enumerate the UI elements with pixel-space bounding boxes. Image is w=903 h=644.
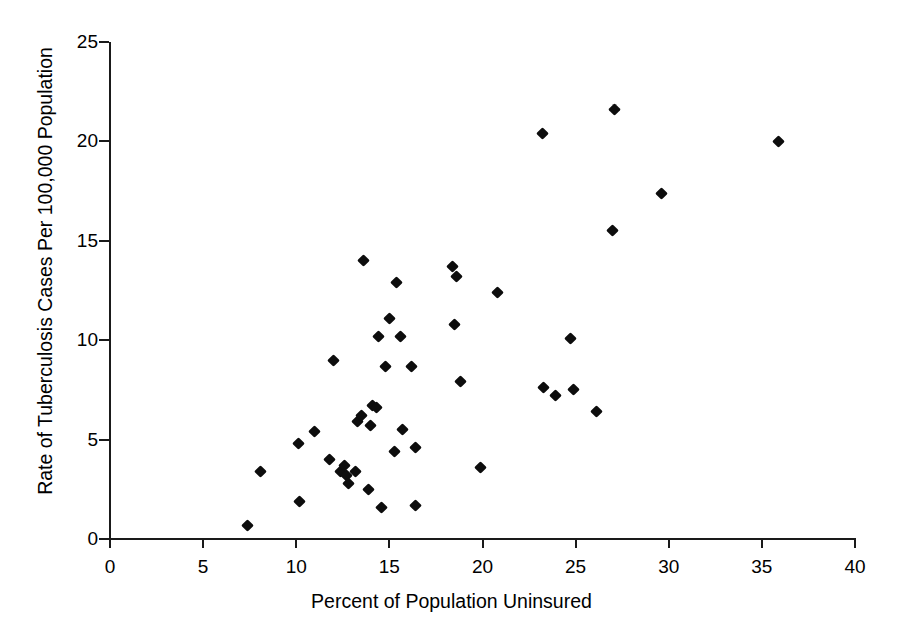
data-point [655, 187, 668, 200]
x-tick-label: 40 [825, 556, 885, 578]
x-tick-mark [295, 538, 297, 548]
data-point [292, 437, 305, 450]
data-point [383, 312, 396, 325]
data-point [448, 318, 461, 331]
data-point [409, 441, 422, 454]
data-point [309, 425, 322, 438]
x-tick-mark [482, 538, 484, 548]
x-tick-mark [388, 538, 390, 548]
data-point [323, 453, 336, 466]
x-tick-label: 20 [453, 556, 513, 578]
data-point [357, 254, 370, 267]
y-tick-label: 0 [52, 529, 98, 548]
plot-area [110, 42, 855, 539]
y-tick-label: 10 [52, 330, 98, 349]
x-tick-mark [575, 538, 577, 548]
data-point [405, 360, 418, 373]
data-point [607, 224, 620, 237]
x-tick-label: 30 [639, 556, 699, 578]
x-tick-label: 15 [359, 556, 419, 578]
data-point [409, 499, 422, 512]
data-point [294, 495, 307, 508]
y-tick-label: 20 [52, 131, 98, 150]
x-tick-mark [761, 538, 763, 548]
x-tick-label: 5 [173, 556, 233, 578]
y-tick-mark [99, 41, 109, 43]
x-tick-label: 25 [546, 556, 606, 578]
data-point [394, 330, 407, 343]
data-point [364, 419, 377, 432]
data-point [491, 286, 504, 299]
data-point [254, 465, 267, 478]
data-point [390, 276, 403, 289]
data-point [590, 405, 603, 418]
data-point [608, 103, 621, 116]
y-tick-mark [99, 439, 109, 441]
x-tick-label: 35 [732, 556, 792, 578]
x-tick-label: 10 [266, 556, 326, 578]
data-point [538, 382, 551, 395]
x-tick-mark [109, 538, 111, 548]
data-point [241, 519, 254, 532]
data-point [567, 384, 580, 397]
data-point [474, 461, 487, 474]
data-point [376, 501, 389, 514]
y-tick-mark [99, 240, 109, 242]
data-point [363, 483, 376, 496]
y-tick-mark [99, 538, 109, 540]
data-point [396, 423, 409, 436]
x-axis-title: Percent of Population Uninsured [0, 590, 903, 612]
data-point [564, 332, 577, 345]
x-tick-label: 0 [80, 556, 140, 578]
y-tick-mark [99, 339, 109, 341]
y-tick-mark [99, 140, 109, 142]
data-point [454, 376, 467, 389]
data-point [327, 354, 340, 367]
y-tick-label: 5 [52, 430, 98, 449]
scatter-plot-figure: 0510152025 0510152025303540 Rate of Tube… [0, 0, 903, 644]
x-tick-mark [202, 538, 204, 548]
data-point [772, 135, 785, 148]
y-axis-title: Rate of Tuberculosis Cases Per 100,000 P… [34, 11, 56, 531]
y-tick-label: 25 [52, 32, 98, 51]
data-point [536, 127, 549, 140]
y-tick-label: 15 [52, 231, 98, 250]
data-point [389, 445, 402, 458]
x-tick-mark [668, 538, 670, 548]
data-point [372, 330, 385, 343]
data-point [549, 389, 562, 402]
x-tick-mark [854, 538, 856, 548]
data-point [379, 360, 392, 373]
